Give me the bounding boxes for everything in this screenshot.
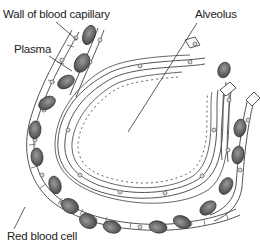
alveolus-label: Alveolus	[195, 9, 237, 21]
alveolus-diagram	[0, 0, 260, 246]
red-blood-cell-label: Red blood cell	[7, 231, 77, 243]
plasma-label: Plasma	[14, 44, 51, 56]
diagram-drawing	[0, 0, 260, 246]
wall-of-blood-capillary-label: Wall of blood capillary	[3, 9, 110, 21]
